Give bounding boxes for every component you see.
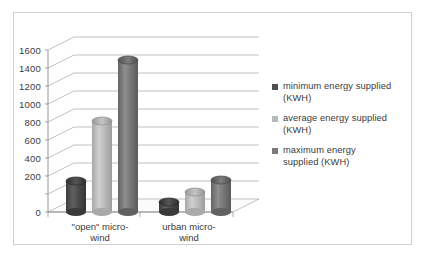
y-tick-label-400: 400 [7, 153, 41, 164]
x-category-open-line2: wind [56, 232, 144, 243]
gridlines [48, 37, 259, 194]
bar-urban-maximum [211, 176, 231, 216]
legend-label-minimum-line2: (KWH) [283, 93, 311, 103]
bar-urban-minimum [159, 198, 179, 216]
chart-frame: 1600 1400 1200 1000 800 600 400 200 0 "o… [13, 12, 412, 245]
legend-label-minimum-line1: minimum energy supplied [283, 81, 391, 91]
y-tick-label-0: 0 [7, 207, 41, 218]
bar-open-average [92, 117, 112, 216]
legend-label-average-line1: average energy supplied [283, 113, 387, 123]
y-tick-label-1200: 1200 [7, 81, 41, 92]
y-tick-label-1600: 1600 [7, 45, 41, 56]
legend-label-minimum: minimum energy supplied (KWH) [283, 81, 391, 104]
legend-marker-maximum-icon [272, 148, 278, 154]
y-tick-label-800: 800 [7, 117, 41, 128]
bar-open-minimum [66, 177, 86, 216]
x-category-urban-line1: urban micro- [145, 221, 233, 232]
legend-label-maximum-line2: supplied (KWH) [283, 157, 350, 167]
legend-item-average[interactable]: average energy supplied (KWH) [272, 113, 404, 136]
x-category-urban-line2: wind [145, 232, 233, 243]
bar-open-maximum [118, 56, 138, 216]
legend-item-maximum[interactable]: maximum energy supplied (KWH) [272, 145, 404, 168]
legend-label-maximum-line1: maximum energy [283, 145, 356, 155]
y-tick-label-1400: 1400 [7, 63, 41, 74]
x-category-open-line1: "open" micro- [56, 221, 144, 232]
chart-legend: minimum energy supplied (KWH) average en… [272, 81, 404, 177]
y-tick-label-600: 600 [7, 135, 41, 146]
legend-label-average: average energy supplied (KWH) [283, 113, 387, 136]
legend-marker-minimum-icon [272, 84, 278, 90]
y-tick-label-200: 200 [7, 171, 41, 182]
x-category-label-urban: urban micro- wind [145, 221, 233, 243]
y-tick-label-1000: 1000 [7, 99, 41, 110]
legend-item-minimum[interactable]: minimum energy supplied (KWH) [272, 81, 404, 104]
legend-label-maximum: maximum energy supplied (KWH) [283, 145, 356, 168]
legend-marker-average-icon [272, 116, 278, 122]
bar-urban-average [185, 188, 205, 216]
x-category-label-open: "open" micro- wind [56, 221, 144, 243]
legend-label-average-line2: (KWH) [283, 125, 311, 135]
